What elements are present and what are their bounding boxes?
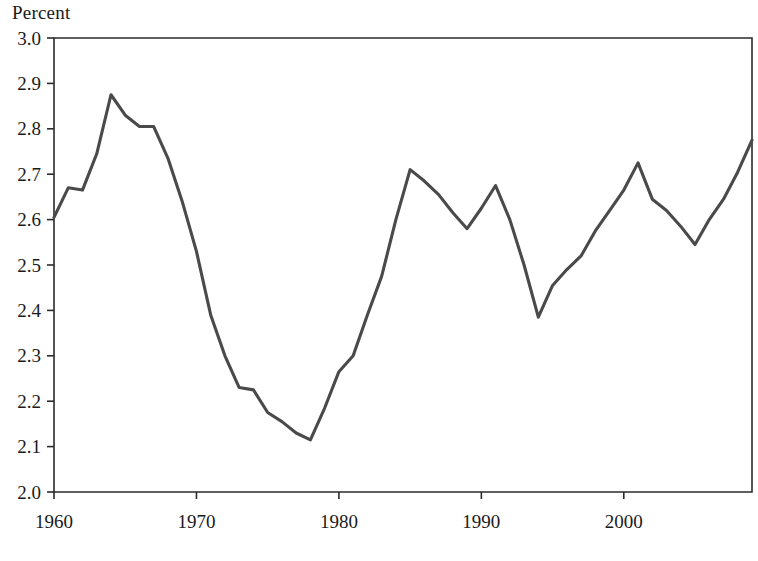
y-axis-tick-label: 2.0 [17, 482, 41, 503]
x-axis-ticks: 19601970198019902000 [35, 492, 643, 532]
x-axis-tick-label: 1960 [35, 511, 73, 532]
y-axis-tick-label: 2.2 [17, 391, 41, 412]
y-axis-ticks: 2.02.12.22.32.42.52.62.72.82.93.0 [17, 28, 54, 503]
y-axis-tick-label: 2.8 [17, 118, 41, 139]
y-axis-tick-label: 2.6 [17, 209, 41, 230]
y-axis-tick-label: 2.5 [17, 255, 41, 276]
x-axis-tick-label: 1990 [462, 511, 500, 532]
data-series-group [54, 95, 752, 440]
y-axis-tick-label: 3.0 [17, 28, 41, 49]
chart-figure: Percent 2.02.12.22.32.42.52.62.72.82.93.… [0, 0, 758, 561]
chart-plot: 2.02.12.22.32.42.52.62.72.82.93.0 196019… [0, 0, 758, 561]
x-axis-tick-label: 2000 [605, 511, 643, 532]
y-axis-tick-label: 2.4 [17, 300, 41, 321]
x-axis-tick-label: 1970 [177, 511, 215, 532]
y-axis-tick-label: 2.7 [17, 164, 41, 185]
plot-border [54, 38, 752, 492]
data-line [54, 95, 752, 440]
axis-frame [54, 38, 752, 492]
x-axis-tick-label: 1980 [320, 511, 358, 532]
y-axis-tick-label: 2.3 [17, 345, 41, 366]
y-axis-tick-label: 2.9 [17, 73, 41, 94]
y-axis-tick-label: 2.1 [17, 436, 41, 457]
